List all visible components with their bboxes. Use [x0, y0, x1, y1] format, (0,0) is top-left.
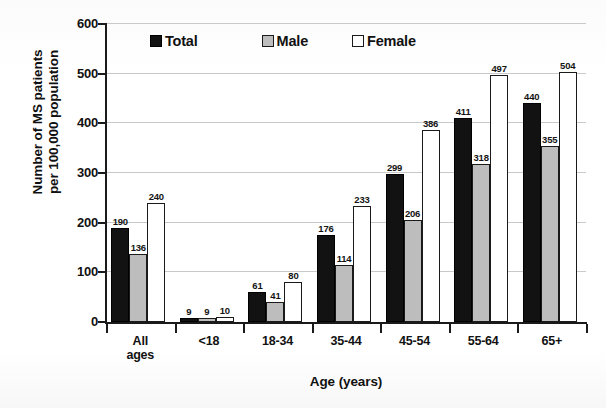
y-tick-label-600: 600 — [56, 16, 98, 31]
x-axis-line — [105, 322, 587, 324]
bar-value-label: 440 — [517, 91, 547, 102]
y-tick-400 — [98, 122, 107, 124]
y-tick-500 — [98, 73, 107, 75]
x-axis-separator — [380, 324, 382, 333]
bar[interactable] — [454, 118, 472, 322]
bar-value-label: 80 — [278, 270, 308, 281]
bar-group: 9910 — [180, 24, 234, 322]
legend-label: Total — [165, 33, 198, 49]
bar-value-label: 504 — [553, 60, 583, 71]
x-tick-label: 55-64 — [449, 334, 518, 348]
x-axis-separator — [312, 324, 314, 333]
y-tick-label-300: 300 — [56, 165, 98, 180]
bar[interactable] — [559, 72, 577, 322]
y-tick-600 — [98, 23, 107, 25]
legend-label: Female — [367, 33, 416, 49]
bar[interactable] — [216, 317, 234, 322]
bar-group: 190136240 — [111, 24, 165, 322]
bar[interactable] — [335, 265, 353, 322]
bar-value-label: 411 — [448, 106, 478, 117]
x-tick-label: 35-44 — [312, 334, 381, 348]
bar[interactable] — [198, 318, 216, 322]
y-tick-label-200: 200 — [56, 215, 98, 230]
y-tick-100 — [98, 271, 107, 273]
x-axis-separator — [243, 324, 245, 333]
x-axis-separator — [586, 324, 588, 333]
x-axis-separator — [175, 324, 177, 333]
legend-item-female[interactable]: Female — [352, 33, 416, 49]
x-axis-separator — [106, 324, 108, 333]
legend-item-male[interactable]: Male — [262, 33, 308, 49]
bar[interactable] — [266, 302, 284, 322]
y-tick-label-500: 500 — [56, 66, 98, 81]
bar[interactable] — [147, 203, 165, 322]
bar-value-label: 299 — [380, 162, 410, 173]
legend-swatch-icon — [352, 35, 364, 47]
bar-group: 299206386 — [386, 24, 440, 322]
legend-item-total[interactable]: Total — [150, 33, 198, 49]
bar[interactable] — [422, 130, 440, 322]
bar-value-label: 176 — [311, 223, 341, 234]
bar[interactable] — [541, 146, 559, 322]
bar-group: 440355504 — [523, 24, 577, 322]
bar-group: 176114233 — [317, 24, 371, 322]
bar-value-label: 190 — [105, 216, 135, 227]
bar-value-label: 233 — [347, 194, 377, 205]
bar[interactable] — [317, 235, 335, 322]
bar-chart: Number of MS patients per 100,000 popula… — [0, 0, 606, 408]
x-tick-label: 45-54 — [380, 334, 449, 348]
bar[interactable] — [353, 206, 371, 322]
bar-group: 614180 — [248, 24, 302, 322]
bar-value-label: 10 — [210, 305, 240, 316]
figure-page: Number of MS patients per 100,000 popula… — [0, 0, 606, 408]
bar-value-label: 386 — [416, 118, 446, 129]
bar[interactable] — [386, 174, 404, 323]
bar-value-label: 240 — [141, 191, 171, 202]
y-tick-300 — [98, 172, 107, 174]
x-axis-separator — [517, 324, 519, 333]
legend-label: Male — [277, 33, 308, 49]
bar-value-label: 497 — [484, 63, 514, 74]
y-tick-label-100: 100 — [56, 264, 98, 279]
y-tick-label-400: 400 — [56, 115, 98, 130]
legend-swatch-icon — [262, 35, 274, 47]
bar[interactable] — [490, 75, 508, 322]
x-tick-label: 18-34 — [243, 334, 312, 348]
bar[interactable] — [472, 164, 490, 322]
bar[interactable] — [129, 254, 147, 322]
y-tick-0 — [98, 321, 107, 323]
x-tick-label: All ages — [106, 334, 175, 362]
bar[interactable] — [180, 318, 198, 322]
y-tick-label-0: 0 — [56, 314, 98, 329]
legend: TotalMaleFemale — [150, 33, 416, 49]
bar[interactable] — [404, 220, 422, 322]
x-axis-separator — [449, 324, 451, 333]
bar-group: 411318497 — [454, 24, 508, 322]
bar[interactable] — [284, 282, 302, 322]
x-tick-label: 65+ — [517, 334, 586, 348]
legend-swatch-icon — [150, 35, 162, 47]
x-axis-title: Age (years) — [106, 374, 586, 389]
x-tick-label: <18 — [175, 334, 244, 348]
